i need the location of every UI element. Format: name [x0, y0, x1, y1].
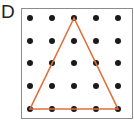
grid-dot — [27, 15, 33, 21]
grid-dot — [115, 83, 121, 89]
grid-dot — [71, 38, 77, 44]
grid-dot — [71, 60, 77, 66]
grid-dots — [27, 15, 121, 112]
grid-dot — [49, 38, 55, 44]
grid-dot — [93, 83, 99, 89]
grid-dot — [49, 83, 55, 89]
dot-grid-diagram — [0, 0, 134, 125]
grid-dot — [27, 83, 33, 89]
grid-dot — [27, 38, 33, 44]
grid-dot — [115, 15, 121, 21]
grid-dot — [27, 60, 33, 66]
grid-dot — [49, 15, 55, 21]
grid-dot — [93, 15, 99, 21]
grid-dot — [71, 83, 77, 89]
grid-dot — [115, 60, 121, 66]
grid-dot — [115, 38, 121, 44]
grid-dot — [93, 38, 99, 44]
